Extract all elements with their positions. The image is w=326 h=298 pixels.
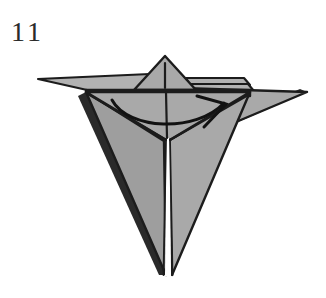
top-peak-flap	[134, 56, 196, 90]
origami-illustration: .paper { fill: #a9a9a9; stroke: #1c1c1c;…	[0, 0, 326, 298]
center-vertical-crease	[166, 92, 167, 138]
origami-figure: 11 .paper { fill: #a9a9a9; stroke: #1c1c…	[0, 0, 326, 298]
